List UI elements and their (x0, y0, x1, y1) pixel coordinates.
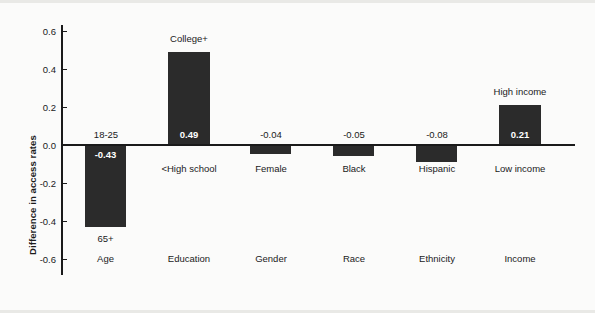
x-group-label-education: Education (157, 253, 221, 264)
chart-figure: Difference in access rates 0.6 0.4 0.2 0… (0, 0, 595, 313)
bar-race-value-label: -0.05 (326, 129, 382, 140)
bar-education-value-label: 0.49 (163, 129, 215, 140)
y-tick-label-1: 0.4 (0, 64, 56, 75)
zero-baseline (61, 144, 575, 146)
y-tick-label-0: 0.6 (0, 26, 56, 37)
y-tick-label-3: 0.0 (0, 140, 56, 151)
y-tick-label-5: -0.4 (0, 216, 56, 227)
bar-ethnicity-value-label: -0.08 (409, 129, 465, 140)
y-tick-label-4: -0.2 (0, 178, 56, 189)
y-tick-label-6: -0.6 (0, 254, 56, 265)
x-group-label-gender: Gender (243, 253, 299, 264)
bar-age-value-label: -0.43 (80, 149, 131, 160)
y-tick-label-2: 0.2 (0, 102, 56, 113)
bar-education-top-label: College+ (156, 33, 222, 44)
bar-age-bottom-label: 65+ (80, 233, 131, 244)
bar-gender-bottom-label: Female (245, 163, 297, 174)
bar-race-bottom-label: Black (328, 163, 380, 174)
y-tick-mark-6 (61, 259, 67, 260)
bar-ethnicity (416, 146, 457, 162)
bar-income-value-label: 0.21 (494, 129, 546, 140)
y-tick-mark-2 (61, 107, 67, 108)
bar-gender (250, 146, 291, 154)
bar-income-top-label: High income (484, 86, 556, 97)
y-tick-mark-0 (61, 31, 67, 32)
x-group-label-ethnicity: Ethnicity (406, 253, 468, 264)
page-edge-top (0, 0, 595, 3)
x-group-label-age: Age (80, 253, 131, 264)
x-group-label-race: Race (328, 253, 380, 264)
bar-income-bottom-label: Low income (484, 163, 556, 174)
y-tick-mark-5 (61, 221, 67, 222)
y-tick-mark-1 (61, 69, 67, 70)
x-group-label-income: Income (492, 253, 548, 264)
bar-education-bottom-label: <High school (152, 163, 226, 174)
bar-race (333, 146, 374, 156)
bar-gender-value-label: -0.04 (243, 129, 299, 140)
bar-age-top-label: 18-25 (75, 129, 137, 140)
y-axis-line (61, 25, 63, 275)
bar-ethnicity-bottom-label: Hispanic (406, 163, 468, 174)
y-tick-mark-4 (61, 183, 67, 184)
